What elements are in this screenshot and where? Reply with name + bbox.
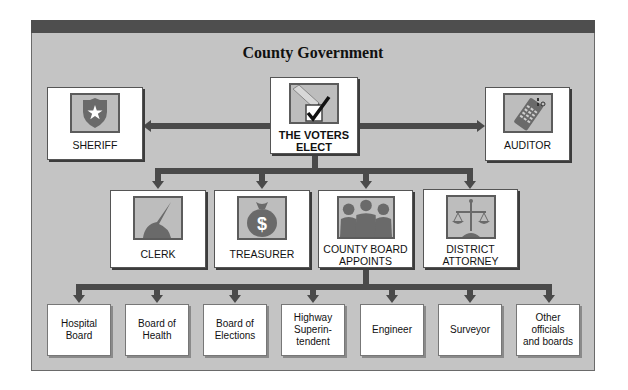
arrow-to-other-officials	[543, 295, 555, 303]
hospital-board-box: Hospital Board	[47, 304, 111, 356]
ballot-check-icon	[289, 83, 339, 124]
district-attorney-box: DISTRICT ATTORNEY	[423, 189, 518, 268]
arrow-to-county-board	[360, 181, 372, 189]
district-attorney-label: DISTRICT ATTORNEY	[442, 243, 498, 267]
header-bar	[31, 20, 595, 33]
hospital-board-label: Hospital Board	[61, 318, 97, 342]
quill-pen-icon	[133, 196, 183, 240]
connector-drop-board	[363, 168, 369, 182]
treasurer-label: TREASURER	[230, 248, 295, 260]
arrow-to-district-attorney	[464, 181, 476, 189]
county-board-box: COUNTY BOARD APPOINTS	[318, 190, 413, 268]
arrow-to-clerk	[152, 181, 164, 189]
treasurer-box: $ TREASURER	[214, 190, 310, 268]
clerk-box: CLERK	[110, 190, 206, 268]
scales-of-justice-icon	[446, 195, 496, 239]
arrow-to-hospital-board	[73, 295, 85, 303]
arrow-to-surveyor	[464, 295, 476, 303]
engineer-box: Engineer	[360, 304, 424, 356]
auditor-box: AUDITOR	[485, 87, 570, 161]
connector-drop-treasurer	[259, 168, 265, 182]
arrow-to-treasurer	[256, 181, 268, 189]
diagram-title: County Government	[31, 44, 595, 62]
connector-middle-bus	[155, 168, 473, 174]
board-members-icon	[337, 196, 395, 239]
connector-voters-auditor	[358, 123, 477, 129]
clerk-label: CLERK	[140, 248, 175, 260]
badge-icon	[70, 93, 120, 133]
voters-label: THE VOTERS ELECT	[279, 129, 349, 153]
arrow-to-board-of-elections	[229, 295, 241, 303]
board-of-health-box: Board of Health	[125, 304, 189, 356]
board-of-elections-box: Board of Elections	[203, 304, 267, 356]
money-bag-icon: $	[237, 196, 287, 240]
connector-voters-sheriff	[151, 123, 270, 129]
other-officials-label: Other officials and boards	[523, 312, 573, 348]
sheriff-box: SHERIFF	[47, 87, 143, 160]
svg-text:$: $	[257, 214, 267, 234]
engineer-label: Engineer	[372, 324, 412, 336]
arrow-to-sheriff	[143, 120, 151, 132]
calculator-icon	[503, 93, 553, 133]
highway-superintendent-box: Highway Superin- tendent	[281, 304, 345, 356]
arrow-to-highway-superintendent	[307, 295, 319, 303]
auditor-label: AUDITOR	[504, 139, 551, 151]
voters-box: THE VOTERS ELECT	[270, 77, 358, 154]
surveyor-box: Surveyor	[438, 304, 502, 356]
connector-drop-clerk	[155, 168, 161, 182]
sheriff-label: SHERIFF	[73, 139, 118, 151]
arrow-to-auditor	[477, 120, 485, 132]
other-officials-box: Other officials and boards	[516, 304, 580, 356]
board-of-elections-label: Board of Elections	[215, 318, 256, 342]
arrow-to-engineer	[386, 295, 398, 303]
county-board-label: COUNTY BOARD APPOINTS	[323, 243, 407, 267]
surveyor-label: Surveyor	[450, 324, 490, 336]
highway-superintendent-label: Highway Superin- tendent	[294, 312, 332, 348]
connector-drop-da	[467, 168, 473, 182]
arrow-to-board-of-health	[151, 295, 163, 303]
board-of-health-label: Board of Health	[138, 318, 176, 342]
